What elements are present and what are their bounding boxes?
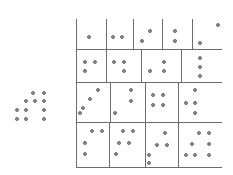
- left-dot-cluster-dot-6: [15, 108, 19, 112]
- left-dot-cluster: [0, 0, 233, 175]
- left-dot-cluster-dot-1: [31, 91, 35, 95]
- left-dot-cluster-dot-11: [42, 117, 46, 121]
- left-dot-cluster-dot-10: [24, 117, 28, 121]
- left-dot-cluster-dot-9: [15, 117, 19, 121]
- left-dot-cluster-dot-8: [42, 108, 46, 112]
- left-dot-cluster-dot-5: [42, 99, 46, 103]
- left-dot-cluster-dot-3: [24, 99, 28, 103]
- left-dot-cluster-dot-4: [33, 99, 37, 103]
- dot-pattern-figure: [0, 0, 233, 175]
- left-dot-cluster-dot-2: [42, 91, 46, 95]
- left-dot-cluster-dot-7: [24, 108, 28, 112]
